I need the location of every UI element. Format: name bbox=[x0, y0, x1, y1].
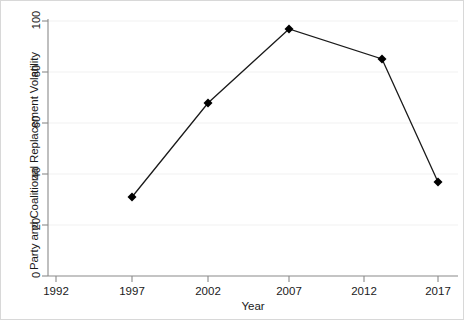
x-tick-label-2007: 2007 bbox=[276, 285, 302, 297]
x-tick-label-1992: 1992 bbox=[43, 285, 69, 297]
x-axis-title: Year bbox=[48, 300, 458, 312]
y-tick-label-20: 20 bbox=[30, 214, 42, 234]
x-tick-label-2017: 2017 bbox=[425, 285, 451, 297]
y-tick-label-60: 60 bbox=[30, 112, 42, 132]
y-tick-label-40: 40 bbox=[30, 163, 42, 183]
data-point-2017[interactable] bbox=[434, 178, 443, 187]
gridlines bbox=[48, 21, 458, 225]
data-markers bbox=[128, 25, 443, 202]
data-point-2013[interactable] bbox=[378, 55, 387, 64]
y-tick-label-100: 100 bbox=[30, 8, 42, 32]
line-chart-canvas bbox=[1, 1, 464, 320]
axes bbox=[48, 19, 458, 276]
chart-figure: Party and Coalitional Replacement Volati… bbox=[0, 0, 464, 320]
x-tick-label-2002: 2002 bbox=[195, 285, 221, 297]
x-tick-label-1997: 1997 bbox=[119, 285, 145, 297]
data-series-line bbox=[132, 29, 438, 197]
x-axis-ticks bbox=[56, 276, 438, 282]
y-tick-label-0: 0 bbox=[30, 268, 42, 282]
x-tick-label-2012: 2012 bbox=[351, 285, 377, 297]
y-tick-label-80: 80 bbox=[30, 61, 42, 81]
